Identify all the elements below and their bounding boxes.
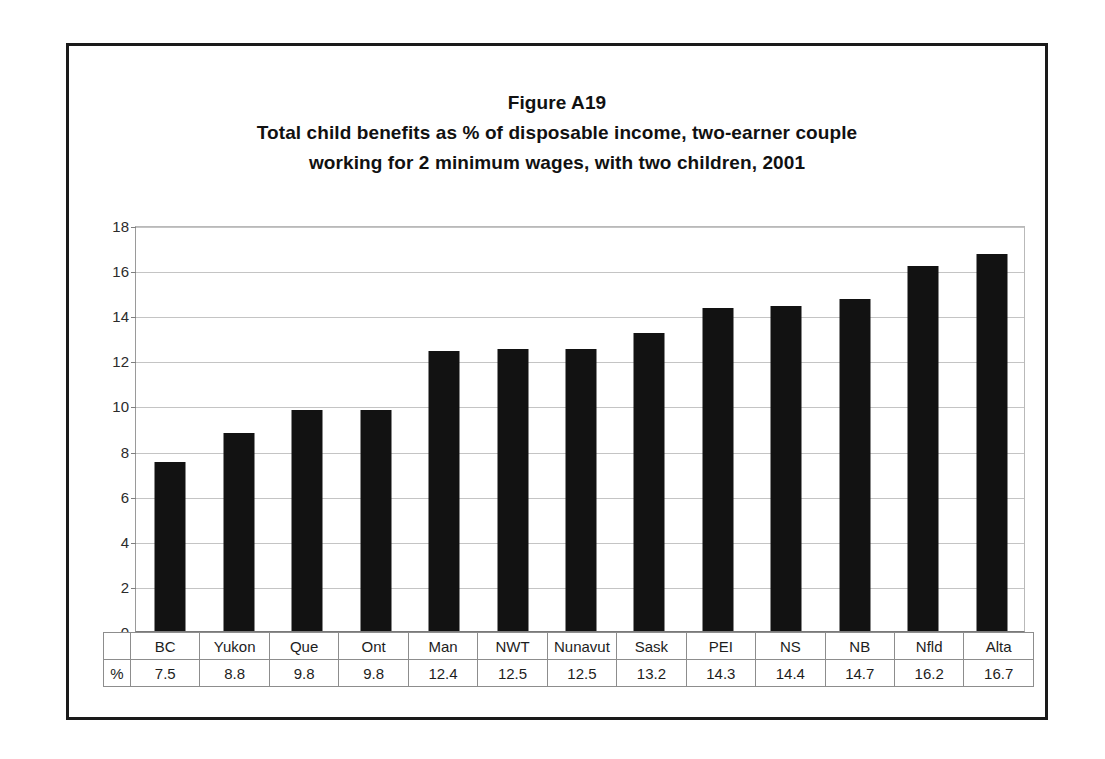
table-cell-category: BC: [131, 633, 200, 660]
table-corner-empty: [104, 633, 131, 660]
table-cell-category: PEI: [686, 633, 755, 660]
bar[interactable]: [429, 351, 460, 631]
y-axis-tick-label: 12: [112, 353, 129, 370]
table-cell-category: NWT: [478, 633, 547, 660]
bar[interactable]: [292, 410, 323, 631]
table-cell-value: 14.4: [756, 660, 825, 687]
bar[interactable]: [702, 308, 733, 631]
bar-slot: [136, 227, 204, 631]
bar-chart: 024681012141618 BCYukonQueOntManNWTNunav…: [103, 211, 1025, 691]
bar-slot: [958, 227, 1026, 631]
bar[interactable]: [360, 410, 391, 631]
figure-title-block: Figure A19 Total child benefits as % of …: [69, 88, 1045, 178]
bar[interactable]: [908, 266, 939, 631]
y-axis-tick-label: 14: [112, 308, 129, 325]
y-axis-tick-label: 18: [112, 218, 129, 235]
y-axis-tick-label: 16: [112, 263, 129, 280]
bar-slot: [821, 227, 889, 631]
bar-slot: [273, 227, 341, 631]
bar[interactable]: [634, 333, 665, 631]
data-table: BCYukonQueOntManNWTNunavutSaskPEINSNBNfl…: [103, 632, 1034, 687]
table-cell-value: 8.8: [200, 660, 269, 687]
bars-layer: [136, 227, 1024, 631]
bar-slot: [547, 227, 615, 631]
table-cell-category: Que: [269, 633, 338, 660]
bar[interactable]: [497, 349, 528, 631]
bar-slot: [615, 227, 683, 631]
table-unit-label: %: [104, 660, 131, 687]
table-cell-category: NB: [825, 633, 894, 660]
bar[interactable]: [976, 254, 1007, 631]
table-cell-value: 14.7: [825, 660, 894, 687]
figure-frame: Figure A19 Total child benefits as % of …: [66, 43, 1048, 720]
table-cell-category: Nunavut: [547, 633, 616, 660]
bar[interactable]: [565, 349, 596, 631]
table-row-values: %7.58.89.89.812.412.512.513.214.314.414.…: [104, 660, 1034, 687]
table-cell-category: Ont: [339, 633, 408, 660]
table-cell-value: 16.2: [894, 660, 963, 687]
plot-area: [135, 226, 1025, 632]
bar[interactable]: [839, 299, 870, 631]
bar[interactable]: [155, 462, 186, 631]
table-cell-value: 16.7: [964, 660, 1033, 687]
y-axis: 024681012141618: [103, 211, 129, 617]
table-cell-value: 7.5: [131, 660, 200, 687]
table-cell-value: 12.4: [408, 660, 477, 687]
table-cell-category: Sask: [617, 633, 686, 660]
y-axis-tick-label: 2: [121, 578, 129, 595]
figure-number-title: Figure A19: [69, 88, 1045, 118]
bar-slot: [684, 227, 752, 631]
y-axis-tick-label: 10: [112, 398, 129, 415]
table-cell-category: Yukon: [200, 633, 269, 660]
y-axis-tick-label: 8: [121, 443, 129, 460]
y-axis-tick-label: 6: [121, 488, 129, 505]
bar-slot: [341, 227, 409, 631]
bar-slot: [478, 227, 546, 631]
table-cell-category: Alta: [964, 633, 1033, 660]
table-cell-category: Man: [408, 633, 477, 660]
table-cell-category: NS: [756, 633, 825, 660]
bar-slot: [204, 227, 272, 631]
table-cell-value: 14.3: [686, 660, 755, 687]
table-cell-value: 9.8: [339, 660, 408, 687]
figure-title-line-3: working for 2 minimum wages, with two ch…: [69, 148, 1045, 178]
bar[interactable]: [223, 433, 254, 631]
table-cell-value: 12.5: [547, 660, 616, 687]
table-cell-category: Nfld: [894, 633, 963, 660]
table-cell-value: 13.2: [617, 660, 686, 687]
bar-slot: [410, 227, 478, 631]
y-axis-tick-label: 4: [121, 533, 129, 550]
figure-title-line-2: Total child benefits as % of disposable …: [69, 118, 1045, 148]
bar-slot: [752, 227, 820, 631]
table-cell-value: 12.5: [478, 660, 547, 687]
table-row-categories: BCYukonQueOntManNWTNunavutSaskPEINSNBNfl…: [104, 633, 1034, 660]
bar-slot: [889, 227, 957, 631]
bar[interactable]: [771, 306, 802, 631]
table-cell-value: 9.8: [269, 660, 338, 687]
